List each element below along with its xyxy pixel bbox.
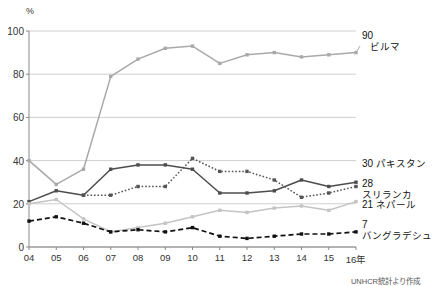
data-point-marker — [300, 232, 303, 235]
data-point-marker — [27, 219, 30, 222]
data-point-marker — [327, 191, 330, 194]
data-point-marker — [55, 189, 58, 192]
data-point-marker — [218, 235, 221, 238]
source-note: UNHCR統計より作成 — [351, 275, 420, 286]
data-point-marker — [136, 163, 139, 166]
x-tick-label: 16年 — [346, 252, 367, 266]
data-point-marker — [27, 159, 30, 162]
data-point-marker — [300, 196, 303, 199]
x-tick-label: 09 — [160, 252, 171, 263]
data-point-marker — [245, 211, 248, 214]
data-point-marker — [164, 230, 167, 233]
y-tick-label: 100 — [0, 26, 24, 37]
data-point-marker — [109, 194, 112, 197]
x-tick-label: 13 — [269, 252, 280, 263]
series-label-nepal: 21 ネパール — [362, 199, 416, 211]
data-point-marker — [300, 204, 303, 207]
series-name: ビルマ — [370, 41, 400, 52]
data-point-marker — [327, 185, 330, 188]
x-tick-label: 07 — [105, 252, 116, 263]
data-point-marker — [327, 232, 330, 235]
series-end-value: 28 — [362, 178, 373, 189]
data-point-marker — [82, 194, 85, 197]
x-tick-label: 05 — [51, 252, 62, 263]
data-point-marker — [109, 168, 112, 171]
data-point-marker — [218, 62, 221, 65]
data-point-marker — [55, 198, 58, 201]
y-axis-unit-label: % — [26, 6, 34, 16]
data-point-marker — [245, 191, 248, 194]
data-point-marker — [218, 191, 221, 194]
y-tick-label: 20 — [0, 198, 24, 209]
x-tick-label: 11 — [215, 252, 225, 263]
series-end-value: 21 — [362, 199, 373, 210]
data-point-marker — [218, 170, 221, 173]
series-name: ネパール — [376, 199, 416, 210]
series-line — [29, 46, 356, 184]
data-point-marker — [273, 189, 276, 192]
x-tick-label: 10 — [187, 252, 198, 263]
series-burma — [27, 44, 357, 186]
data-point-marker — [300, 55, 303, 58]
data-point-marker — [327, 209, 330, 212]
y-tick-label: 0 — [0, 242, 24, 253]
data-point-marker — [109, 230, 112, 233]
data-point-marker — [191, 157, 194, 160]
data-point-marker — [82, 168, 85, 171]
series-pakistan — [27, 163, 357, 203]
data-point-marker — [273, 235, 276, 238]
series-name: スリランカ — [362, 189, 412, 200]
series-name: パキスタン — [376, 158, 426, 169]
data-point-marker — [136, 185, 139, 188]
leader-line-burma — [356, 46, 360, 53]
data-point-marker — [354, 200, 357, 203]
data-point-marker — [164, 222, 167, 225]
data-point-marker — [27, 202, 30, 205]
data-point-marker — [82, 217, 85, 220]
x-tick-label: 14 — [296, 252, 307, 263]
y-tick-label: 60 — [0, 112, 24, 123]
data-point-marker — [136, 228, 139, 231]
data-point-marker — [55, 183, 58, 186]
data-point-marker — [327, 53, 330, 56]
data-point-marker — [191, 226, 194, 229]
data-point-marker — [164, 47, 167, 50]
data-point-marker — [218, 209, 221, 212]
data-point-marker — [109, 75, 112, 78]
data-point-marker — [136, 57, 139, 60]
data-point-marker — [191, 168, 194, 171]
data-point-marker — [354, 230, 357, 233]
data-point-marker — [82, 222, 85, 225]
x-tick-label: 12 — [242, 252, 253, 263]
y-tick-label: 40 — [0, 155, 24, 166]
series-label-bangladesh: 7バングラデシュ — [362, 219, 432, 241]
x-tick-label: 15 — [323, 252, 334, 263]
data-point-marker — [245, 170, 248, 173]
series-name: バングラデシュ — [362, 230, 432, 241]
series-end-value: 90 — [362, 30, 373, 41]
data-point-marker — [55, 215, 58, 218]
data-point-marker — [245, 237, 248, 240]
x-tick-label: 04 — [24, 252, 35, 263]
data-point-marker — [245, 53, 248, 56]
data-point-marker — [354, 181, 357, 184]
series-label-sri-lanka: 28スリランカ — [362, 178, 412, 200]
data-point-marker — [273, 206, 276, 209]
x-tick-label: 06 — [78, 252, 89, 263]
x-tick-label: 08 — [133, 252, 144, 263]
y-tick-label: 80 — [0, 69, 24, 80]
series-end-value: 30 — [362, 158, 373, 169]
data-point-marker — [273, 178, 276, 181]
data-point-marker — [191, 215, 194, 218]
series-label-burma: 90ビルマ — [362, 30, 400, 52]
data-point-marker — [164, 163, 167, 166]
series-bangladesh — [27, 215, 357, 240]
data-point-marker — [164, 185, 167, 188]
data-point-marker — [191, 44, 194, 47]
data-point-marker — [300, 178, 303, 181]
data-point-marker — [354, 185, 357, 188]
series-label-pakistan: 30 パキスタン — [362, 158, 426, 170]
series-end-value: 7 — [362, 219, 368, 230]
